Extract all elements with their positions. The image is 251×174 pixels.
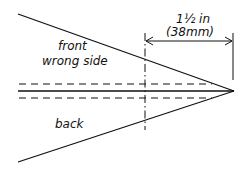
label-metric: (38mm)	[166, 26, 214, 39]
label-back: back	[55, 118, 84, 131]
back-edge-line	[18, 91, 234, 162]
label-front: front	[58, 40, 87, 53]
seam-diagram: 1½ in (38mm) front wrong side back	[0, 0, 251, 174]
label-wrong-side: wrong side	[42, 55, 108, 68]
